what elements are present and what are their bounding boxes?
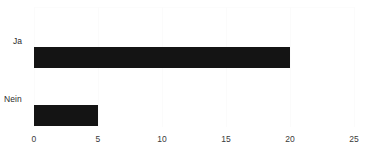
gridline-x-25 (354, 7, 355, 127)
category-label-ja: Ja (13, 36, 22, 46)
gridline-x-20 (290, 7, 291, 127)
x-axis: 0510152025 (0, 134, 367, 148)
x-tick-label-10: 10 (157, 134, 167, 145)
bar-ja[interactable] (34, 47, 290, 68)
x-tick-label-0: 0 (32, 134, 37, 145)
gridline-top (34, 7, 354, 8)
bar-chart: Ja Nein 0510152025 (0, 0, 367, 160)
bar-nein[interactable] (34, 105, 98, 126)
category-label-nein: Nein (4, 94, 22, 104)
x-tick-label-20: 20 (285, 134, 295, 145)
plot-area (34, 7, 354, 127)
x-tick-label-5: 5 (96, 134, 101, 145)
x-tick-label-15: 15 (221, 134, 231, 145)
x-tick-label-25: 25 (349, 134, 359, 145)
